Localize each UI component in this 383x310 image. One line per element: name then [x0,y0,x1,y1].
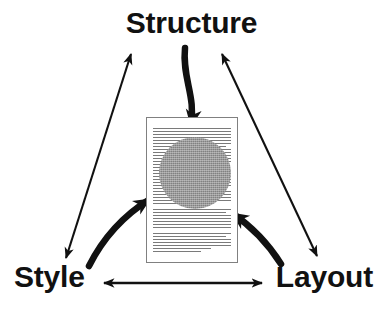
node-label-style: Style [14,262,85,292]
document-text-line [153,251,201,252]
diagram-canvas: Structure Style Layout [0,0,383,310]
document-text-line [153,215,231,216]
document-text-line [153,134,231,135]
document-text-line [153,224,231,225]
document-text-line [153,131,231,132]
document-text-line [153,227,231,228]
document-text-line [153,128,231,129]
node-label-layout: Layout [276,262,373,292]
document-text-line [153,239,231,240]
document-text-line [153,236,226,237]
document-text-line [153,242,231,243]
edge-structure-style [66,54,131,258]
document-text-line [153,212,226,213]
contribution-structure-to-document [185,48,193,126]
document-text-line [153,248,211,249]
document-text-line [153,209,231,210]
document-text-line [153,218,231,219]
document-text-line [153,233,231,234]
contribution-style-to-document [89,199,150,266]
node-label-structure: Structure [0,8,383,38]
document-instance-blob [159,137,231,209]
contribution-layout-to-document [232,213,281,264]
document-text-line [153,245,231,246]
document-text-line [153,221,231,222]
